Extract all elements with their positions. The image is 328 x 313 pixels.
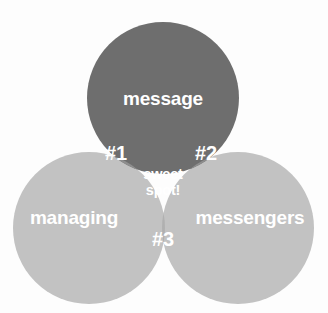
venn-label-region-2: #2 [195,142,217,164]
venn-label-region-1: #1 [105,142,127,164]
venn-label-region-3: #3 [152,228,174,250]
venn-diagram-canvas: message managing messengers #1 #2 #3 swe… [0,0,328,313]
venn-label-sweet-spot-line1: sweet [143,166,183,182]
venn-diagram: message managing messengers #1 #2 #3 swe… [0,0,328,313]
venn-label-message: message [123,88,203,109]
venn-label-sweet-spot-line2: spot! [146,182,180,198]
venn-label-managing: managing [30,207,118,228]
venn-label-messengers: messengers [196,207,305,228]
